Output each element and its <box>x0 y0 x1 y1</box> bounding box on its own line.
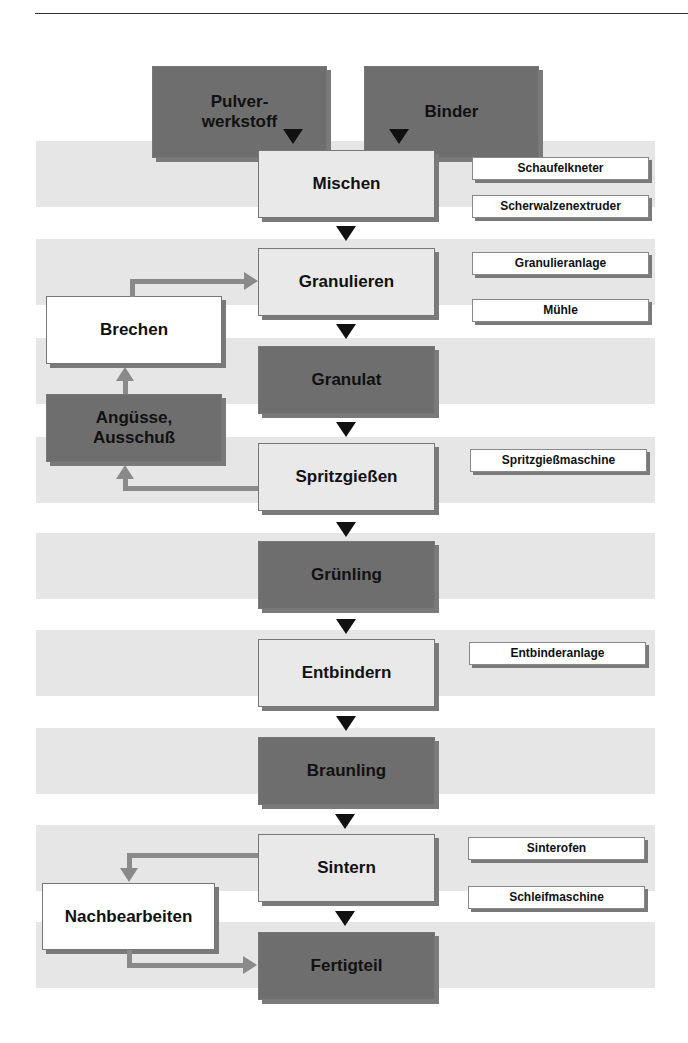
arrow-up-icon <box>116 465 134 479</box>
arrow-down-icon <box>335 814 355 829</box>
equipment-label: Scherwalzenextruder <box>472 195 649 218</box>
equipment-label: Granulieranlage <box>472 252 649 275</box>
arrow-right-icon <box>244 272 258 290</box>
arrow-down-icon <box>336 422 356 437</box>
loop-sprues: Angüsse, Ausschuß <box>46 394 222 462</box>
step-mixing: Mischen <box>258 150 435 218</box>
connector <box>127 853 132 869</box>
arrow-down-icon <box>336 716 356 731</box>
step-green-part: Grünling <box>258 541 435 609</box>
step-sintering: Sintern <box>258 834 435 902</box>
arrow-down-icon <box>335 911 355 926</box>
header-rule <box>35 13 688 14</box>
equipment-label: Sinterofen <box>468 837 645 860</box>
equipment-label: Schleifmaschine <box>468 886 645 909</box>
step-debinding: Entbindern <box>258 639 435 707</box>
equipment-label: Schaufelkneter <box>472 157 649 180</box>
equipment-label: Spritzgießmaschine <box>470 449 647 472</box>
arrow-down-icon <box>336 619 356 634</box>
arrow-right-icon <box>243 956 257 974</box>
arrow-down-icon <box>336 226 356 241</box>
step-brown-part: Braunling <box>258 737 435 805</box>
loop-crushing: Brechen <box>46 296 222 364</box>
connector <box>127 963 245 968</box>
arrow-down-icon <box>120 868 138 882</box>
arrow-up-icon <box>116 367 134 381</box>
input-binder: Binder <box>364 66 539 158</box>
step-injection: Spritzgießen <box>258 443 435 511</box>
step-granulating: Granulieren <box>258 248 435 316</box>
step-finished-part: Fertigteil <box>258 932 435 1000</box>
arrow-down-icon <box>336 324 356 339</box>
connector <box>130 279 245 284</box>
arrow-down-icon <box>389 129 409 144</box>
equipment-label: Entbinderanlage <box>469 642 646 665</box>
equipment-label: Mühle <box>472 299 649 322</box>
step-granulate: Granulat <box>258 346 435 414</box>
connector <box>123 486 258 491</box>
arrow-down-icon <box>336 522 356 537</box>
loop-post-processing: Nachbearbeiten <box>42 883 215 950</box>
input-powder: Pulver- werkstoff <box>152 66 327 158</box>
arrow-down-icon <box>283 129 303 144</box>
connector <box>127 853 258 858</box>
